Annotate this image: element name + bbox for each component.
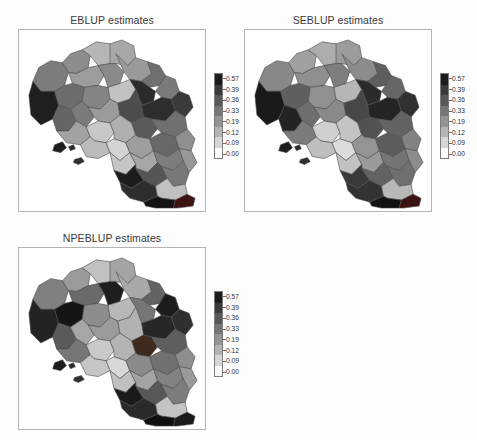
map-frame-seblup[interactable] xyxy=(244,29,432,212)
legend-swatch-2 xyxy=(441,95,448,106)
legend-label-group: 0.570.390.360.330.190.120.090.00 xyxy=(226,287,250,381)
legend-swatch-1 xyxy=(441,85,448,96)
legend-swatch-2 xyxy=(215,313,222,324)
legend-tick-label: 0.33 xyxy=(226,325,239,332)
legend-swatch-6 xyxy=(215,137,222,148)
legend-tick-label: 0.00 xyxy=(226,368,239,375)
legend-tick-label: 0.39 xyxy=(226,86,239,93)
legend-swatch-0 xyxy=(441,74,448,85)
legend-swatch-3 xyxy=(215,324,222,335)
legend-tick-label: 0.36 xyxy=(226,314,239,321)
panel-title-seblup: SEBLUP estimates xyxy=(240,14,436,26)
legend-tick-label: 0.09 xyxy=(452,139,465,146)
figure-canvas: EBLUP estimates xyxy=(0,0,477,440)
choropleth-map-seblup[interactable] xyxy=(245,30,431,211)
panel-seblup: SEBLUP estimates xyxy=(240,14,476,214)
legend-tick-label: 0.12 xyxy=(226,347,239,354)
legend-label-group: 0.570.390.360.330.190.120.090.00 xyxy=(452,69,476,163)
legend-swatch-7 xyxy=(215,366,222,377)
legend-tick-label: 0.39 xyxy=(226,304,239,311)
choropleth-map-eblup[interactable] xyxy=(19,30,205,211)
panel-title-eblup: EBLUP estimates xyxy=(14,14,210,26)
choropleth-map-npeblup[interactable] xyxy=(19,248,205,429)
legend-tick-label: 0.36 xyxy=(226,96,239,103)
legend-tick-label: 0.00 xyxy=(452,150,465,157)
legend-swatch-6 xyxy=(441,137,448,148)
legend-tick-label: 0.39 xyxy=(452,86,465,93)
legend-tick-label: 0.12 xyxy=(452,129,465,136)
panel-title-npeblup: NPEBLUP estimates xyxy=(14,232,210,244)
legend-swatch-7 xyxy=(441,148,448,159)
panel-eblup: EBLUP estimates xyxy=(14,14,250,214)
legend-swatch-0 xyxy=(215,292,222,303)
legend-swatch-4 xyxy=(215,334,222,345)
legend-swatch-3 xyxy=(215,106,222,117)
legend-tick-label: 0.19 xyxy=(452,118,465,125)
legend-tick-label: 0.12 xyxy=(226,129,239,136)
legend-colorbar xyxy=(214,73,223,159)
legend-tick-label: 0.19 xyxy=(226,336,239,343)
legend-tick-label: 0.00 xyxy=(226,150,239,157)
legend-tick-label: 0.33 xyxy=(452,107,465,114)
legend-tick-label: 0.33 xyxy=(226,107,239,114)
legend-tick-label: 0.57 xyxy=(226,75,239,82)
legend-swatch-2 xyxy=(215,95,222,106)
panel-npeblup: NPEBLUP estimates xyxy=(14,232,250,432)
legend-colorbar xyxy=(440,73,449,159)
legend-swatch-1 xyxy=(215,303,222,314)
legend-swatch-6 xyxy=(215,355,222,366)
legend-swatch-4 xyxy=(215,116,222,127)
legend-tick-label: 0.19 xyxy=(226,118,239,125)
legend-seblup: 0.570.390.360.330.190.120.090.00 xyxy=(439,69,475,165)
legend-swatch-3 xyxy=(441,106,448,117)
legend-swatch-7 xyxy=(215,148,222,159)
legend-npeblup: 0.570.390.360.330.190.120.090.00 xyxy=(213,287,249,383)
legend-tick-label: 0.09 xyxy=(226,357,239,364)
legend-swatch-4 xyxy=(441,116,448,127)
legend-swatch-1 xyxy=(215,85,222,96)
legend-tick-label: 0.57 xyxy=(452,75,465,82)
map-frame-eblup[interactable] xyxy=(18,29,206,212)
legend-tick-label: 0.09 xyxy=(226,139,239,146)
legend-colorbar xyxy=(214,291,223,377)
map-frame-npeblup[interactable] xyxy=(18,247,206,430)
legend-swatch-5 xyxy=(215,127,222,138)
legend-swatch-0 xyxy=(215,74,222,85)
legend-swatch-5 xyxy=(441,127,448,138)
legend-tick-label: 0.57 xyxy=(226,293,239,300)
legend-swatch-5 xyxy=(215,345,222,356)
legend-tick-label: 0.36 xyxy=(452,96,465,103)
